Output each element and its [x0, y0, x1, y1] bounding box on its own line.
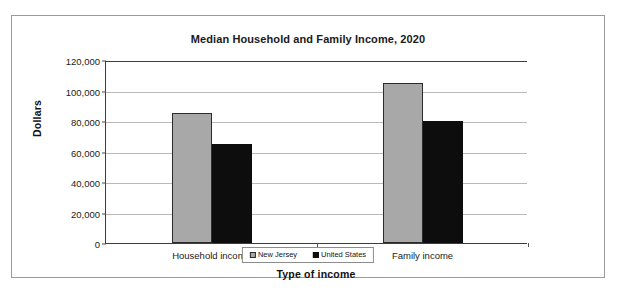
bar-united-states-household-income[interactable]: [212, 144, 252, 243]
y-axis-tick-mark: [102, 91, 106, 92]
x-axis-category-label: Household income: [172, 250, 251, 261]
gridline: [106, 92, 527, 93]
x-axis-title: Type of income: [105, 268, 527, 280]
gridline: [106, 153, 527, 154]
gridline: [106, 122, 527, 123]
y-axis-tick-label: 20,000: [71, 208, 100, 219]
y-axis-tick-label: 80,000: [71, 117, 100, 128]
chart-container: Median Household and Family Income, 2020…: [11, 15, 605, 278]
legend-swatch-icon: [313, 252, 319, 258]
legend-item-label: New Jersey: [258, 250, 297, 259]
plot-area: 020,00040,00060,00080,000100,000120,000 …: [105, 61, 527, 244]
y-axis-tick-label: 0: [95, 239, 100, 250]
legend-item-new-jersey[interactable]: New Jersey: [250, 250, 297, 259]
y-axis-tick-label: 40,000: [71, 178, 100, 189]
gridline: [106, 214, 527, 215]
y-axis-tick-mark: [102, 61, 106, 62]
y-axis-tick-label: 120,000: [66, 56, 100, 67]
y-axis-tick-mark: [102, 244, 106, 245]
legend-item-united-states[interactable]: United States: [313, 250, 366, 259]
y-axis-tick-mark: [102, 213, 106, 214]
bar-new-jersey-family-income[interactable]: [383, 83, 423, 243]
y-axis-tick-label: 60,000: [71, 147, 100, 158]
y-axis-tick-label: 100,000: [66, 86, 100, 97]
bar-new-jersey-household-income[interactable]: [172, 113, 212, 243]
bar-united-states-family-income[interactable]: [423, 121, 463, 243]
x-axis-category-label: Family income: [392, 250, 453, 261]
legend-swatch-icon: [250, 252, 256, 258]
y-axis-tick-mark: [102, 122, 106, 123]
gridline: [106, 183, 527, 184]
chart-legend: New JerseyUnited States: [242, 247, 374, 263]
gridline: [106, 61, 527, 62]
legend-item-label: United States: [321, 250, 366, 259]
y-axis-title: Dollars: [31, 100, 47, 137]
x-axis-tick-mark: [528, 243, 529, 247]
chart-title: Median Household and Family Income, 2020: [12, 33, 604, 45]
y-axis-tick-mark: [102, 183, 106, 184]
y-axis-tick-mark: [102, 152, 106, 153]
